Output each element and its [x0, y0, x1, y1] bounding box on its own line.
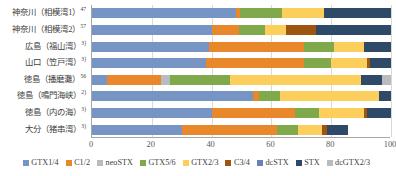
bar-segment-gtx14: [92, 125, 182, 135]
x-tick-100: 100: [384, 140, 396, 149]
bar-segment-gtx23: [331, 58, 367, 68]
legend-label: GTX5/6: [148, 159, 175, 167]
legend-item[interactable]: neoSTX: [97, 159, 133, 167]
legend-label: GTX2/3: [191, 159, 218, 167]
bar-segment-stx: [327, 125, 348, 135]
bar-row: [92, 58, 390, 68]
gridline-100: [391, 5, 392, 137]
bar-row: [92, 75, 390, 85]
legend-label: neoSTX: [106, 159, 133, 167]
bar-segment-gtx23: [265, 25, 286, 35]
bar-segment-gtx56: [295, 108, 319, 118]
bar-segment-gtx56: [170, 75, 230, 85]
bar-segment-gtx56: [259, 91, 280, 101]
bar-segment-gtx14: [92, 75, 107, 85]
legend-item[interactable]: GTX5/6: [140, 159, 176, 167]
legend-item[interactable]: C3/4: [225, 159, 249, 167]
bar-segment-gtx23: [230, 75, 362, 85]
bar-segment-gtx56: [240, 8, 282, 18]
x-tick-20: 20: [147, 140, 155, 149]
legend-item[interactable]: STX: [296, 159, 320, 167]
bar-segment-gtx14: [92, 25, 212, 35]
category-label: 大分（猪串湾）3): [25, 125, 86, 135]
bar-segment-neostx: [161, 75, 170, 85]
bar-segment-stx: [370, 58, 391, 68]
bar-segment-gtx56: [304, 42, 334, 52]
plot-area: [91, 5, 390, 138]
legend-item[interactable]: C1/2: [66, 159, 90, 167]
legend-swatch-icon: [257, 160, 263, 166]
x-tick-0: 0: [89, 140, 93, 149]
bar-segment-stx: [361, 75, 382, 85]
bar-segment-stx: [379, 91, 391, 101]
bar-segment-gtx56: [277, 125, 298, 135]
bar-row: [92, 91, 390, 101]
bar-segment-stx: [324, 8, 391, 18]
category-label: 神奈川（相模湾2）57: [12, 25, 86, 35]
bar-segment-gtx14: [92, 91, 253, 101]
bar-segment-gtx14: [92, 58, 206, 68]
bar-row: [92, 42, 390, 52]
bar-row: [92, 25, 390, 35]
bar-segment-stx: [364, 42, 391, 52]
legend-swatch-icon: [296, 160, 302, 166]
x-tick-80: 80: [326, 140, 334, 149]
legend-label: C1/2: [74, 159, 90, 167]
legend-label: dcSTX: [265, 159, 288, 167]
bar-segment-gtx14: [92, 8, 236, 18]
legend-item[interactable]: dcGTX2/3: [327, 159, 371, 167]
legend-label: C3/4: [234, 159, 250, 167]
bar-segment-dcgtx23: [382, 75, 391, 85]
category-label: 山口（笠戸湾）3): [25, 58, 86, 68]
bar-segment-gtx23: [298, 125, 322, 135]
legend-swatch-icon: [183, 160, 189, 166]
bar-segment-gtx23: [334, 42, 364, 52]
bar-segment-gtx56: [239, 25, 266, 35]
bar-segment-stx: [316, 25, 391, 35]
legend-label: dcGTX2/3: [335, 159, 370, 167]
bar-segment-c12: [212, 108, 296, 118]
bar-segment-gtx23: [319, 108, 364, 118]
legend-label: STX: [304, 159, 319, 167]
bar-segment-gtx56: [304, 58, 331, 68]
category-label: 神奈川（相模湾1）47: [12, 8, 86, 18]
bar-segment-c12: [182, 125, 278, 135]
bar-segment-c12: [209, 42, 305, 52]
bar-segment-c12: [206, 58, 305, 68]
bar-row: [92, 108, 390, 118]
bar-segment-gtx14: [92, 42, 209, 52]
bar-segment-stx: [367, 108, 391, 118]
chart-legend: GTX1/4C1/2neoSTXGTX5/6GTX2/3C3/4dcSTXSTX…: [0, 159, 393, 167]
legend-swatch-icon: [225, 160, 231, 166]
bar-segment-gtx23: [282, 8, 324, 18]
bar-segment-c34: [286, 25, 316, 35]
bar-row: [92, 8, 390, 18]
category-label: 徳島（鳴門海峡）2): [17, 91, 86, 101]
legend-item[interactable]: GTX2/3: [183, 159, 219, 167]
bar-segment-c12: [107, 75, 161, 85]
category-label: 徳島（播磨灘）56: [24, 75, 86, 85]
legend-swatch-icon: [327, 160, 333, 166]
x-tick-40: 40: [206, 140, 214, 149]
bar-segment-gtx14: [92, 108, 212, 118]
legend-swatch-icon: [140, 160, 146, 166]
legend-swatch-icon: [23, 160, 29, 166]
category-label: 徳島（内の海）3): [25, 108, 86, 118]
bar-segment-c12: [212, 25, 239, 35]
legend-swatch-icon: [66, 160, 72, 166]
bar-rows: [92, 5, 390, 137]
x-tick-60: 60: [266, 140, 274, 149]
bar-row: [92, 125, 390, 135]
legend-item[interactable]: dcSTX: [257, 159, 289, 167]
legend-swatch-icon: [97, 160, 103, 166]
y-axis-category-labels: 神奈川（相模湾1）47神奈川（相模湾2）57広島（福山湾）3)山口（笠戸湾）3)…: [0, 5, 88, 138]
legend-item[interactable]: GTX1/4: [23, 159, 59, 167]
x-axis-tick-labels: 020406080100: [91, 140, 390, 154]
category-label: 広島（福山湾）3): [25, 42, 86, 52]
bar-segment-gtx23: [280, 91, 379, 101]
legend-label: GTX1/4: [31, 159, 58, 167]
